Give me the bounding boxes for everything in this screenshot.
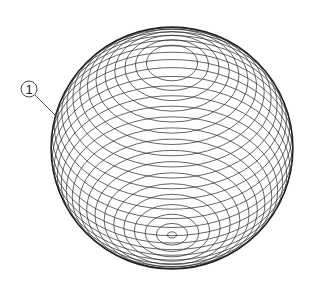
latitude-line <box>58 40 287 199</box>
sphere-diagram: 1 <box>0 0 310 287</box>
latitude-line <box>51 68 293 236</box>
latitude-line <box>145 214 198 251</box>
latitude-line <box>156 223 187 245</box>
latitude-line <box>54 46 289 209</box>
callout-1: 1 <box>21 81 58 118</box>
latitude-line <box>104 173 240 267</box>
latitude-line <box>168 232 177 238</box>
latitude-line <box>96 27 248 133</box>
latitude-line <box>115 32 230 112</box>
latitude-line <box>79 139 265 268</box>
latitude-line <box>61 106 282 260</box>
latitude-line <box>57 96 287 256</box>
contour-lines <box>51 27 293 269</box>
latitude-line <box>114 184 231 265</box>
leader-line <box>35 95 58 118</box>
latitude-line <box>62 36 283 189</box>
latitude-line <box>146 45 197 81</box>
callout-label: 1 <box>25 82 32 97</box>
